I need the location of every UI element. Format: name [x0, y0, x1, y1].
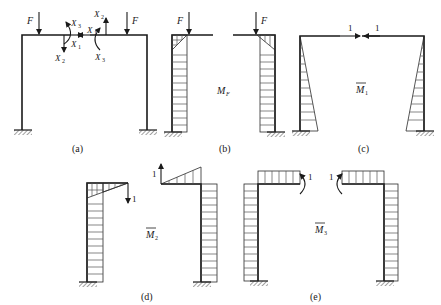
label-x1-right: X 1 — [86, 25, 97, 36]
svg-text:X: X — [70, 39, 77, 49]
svg-text:3: 3 — [102, 57, 105, 63]
label-m2-bar: M 2 — [145, 228, 158, 241]
load-label-right: F — [131, 15, 139, 26]
moment-diagram-left — [87, 183, 128, 282]
svg-text:1: 1 — [78, 44, 81, 50]
load-label-left: F — [176, 15, 184, 26]
label-x1-left: X 1 — [70, 39, 81, 50]
svg-text:1: 1 — [94, 30, 97, 36]
svg-text:M: M — [355, 84, 365, 95]
moment-diagram-left — [244, 171, 300, 281]
label-x3-left: X 3 — [70, 18, 81, 29]
unit-load-label-right: 1 — [152, 169, 157, 179]
panel-c-m1-diagram: 1 1 — [292, 23, 434, 155]
svg-text:X: X — [54, 53, 61, 63]
frame-left-half — [258, 184, 300, 281]
svg-text:M: M — [314, 224, 324, 235]
caption-b: (b) — [219, 143, 231, 155]
unit-moment-label-right: 1 — [329, 172, 334, 182]
svg-text:M: M — [216, 85, 226, 96]
load-label-right: F — [260, 15, 268, 26]
moment-diagram-right — [257, 35, 275, 132]
svg-text:1: 1 — [365, 90, 368, 96]
fixed-support-right — [139, 130, 157, 135]
frame-right-half — [161, 184, 201, 282]
frame-left-half — [172, 35, 213, 132]
svg-text:X: X — [70, 18, 77, 28]
caption-a: (a) — [72, 143, 83, 155]
panel-d-m2-diagram: 1 1 M — [79, 164, 217, 303]
fixed-support-left — [14, 130, 32, 135]
label-x2-right: X 2 — [93, 9, 104, 20]
moment-diagram-right — [161, 167, 217, 282]
svg-text:3: 3 — [78, 23, 81, 29]
svg-text:3: 3 — [324, 230, 327, 236]
svg-text:2: 2 — [101, 14, 104, 20]
svg-text:F: F — [225, 91, 230, 97]
frame-left-half — [300, 36, 340, 131]
unit-moment-left — [300, 174, 305, 194]
svg-text:X: X — [93, 9, 100, 19]
unit-load-label-left: 1 — [348, 23, 353, 33]
svg-text:X: X — [86, 25, 93, 35]
label-mf: M F — [216, 85, 230, 97]
moment-diagram-left — [300, 36, 318, 131]
load-label-left: F — [26, 15, 34, 26]
frame-right-half — [342, 184, 384, 281]
unit-moment-right — [337, 174, 342, 194]
label-x2-left: X 2 — [54, 53, 65, 64]
moment-diagram-right — [406, 36, 424, 131]
caption-e: (e) — [310, 291, 321, 303]
frame-right-half — [233, 35, 275, 132]
moment-diagram-left — [172, 35, 187, 132]
structural-mechanics-figure: F F X 3 X 1 X 2 X 2 X 1 — [0, 0, 441, 305]
panel-e-m3-diagram: 1 1 — [244, 171, 398, 303]
svg-text:M: M — [145, 229, 155, 240]
unit-moment-label-left: 1 — [308, 172, 313, 182]
frame-left-half — [22, 35, 70, 130]
label-m3-bar: M 3 — [314, 223, 327, 236]
svg-text:2: 2 — [155, 235, 158, 241]
panel-b-mf-diagram: F F M F (b) — [164, 12, 285, 155]
panel-a-primary-structure: F F X 3 X 1 X 2 X 2 X 1 — [14, 9, 157, 155]
svg-text:X: X — [94, 52, 101, 62]
svg-text:2: 2 — [62, 58, 65, 64]
unit-load-label-left: 1 — [132, 194, 137, 204]
label-x3-right: X 3 — [94, 52, 105, 63]
unit-load-label-right: 1 — [375, 23, 380, 33]
label-m1-bar: M 1 — [355, 83, 368, 96]
caption-d: (d) — [141, 291, 153, 303]
moment-diagram-right — [342, 171, 398, 281]
caption-c: (c) — [358, 143, 369, 155]
x3-moment-left — [64, 22, 71, 44]
